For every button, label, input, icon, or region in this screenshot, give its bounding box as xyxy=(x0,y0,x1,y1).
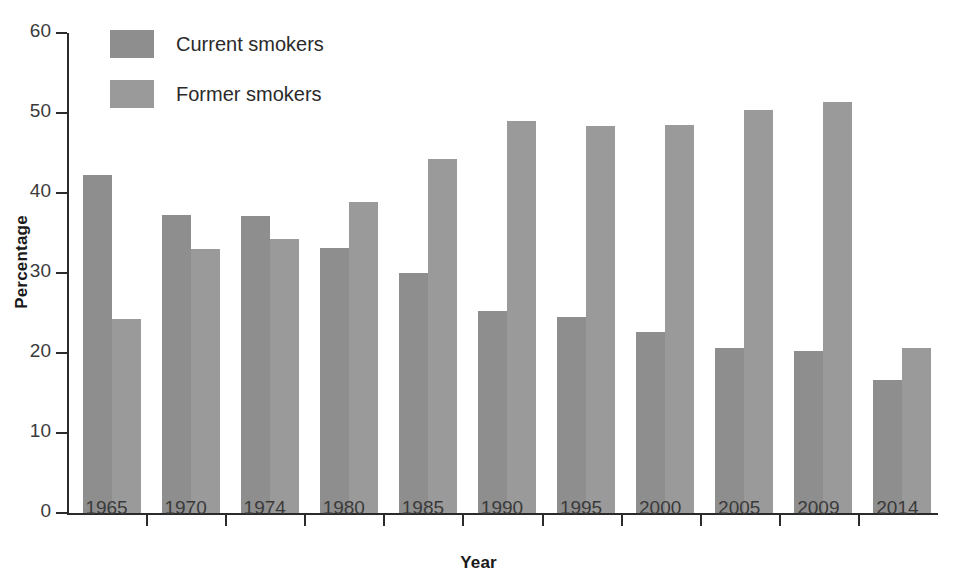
x-axis-title: Year xyxy=(0,553,957,573)
bar-1970-current-smokers xyxy=(162,215,191,513)
x-axis-tick-label: 1970 xyxy=(146,497,225,519)
bar-1995-current-smokers xyxy=(557,317,586,513)
x-axis-tick-label: 1965 xyxy=(67,497,146,519)
bar-2000-former-smokers xyxy=(665,125,694,513)
bar-1995-former-smokers xyxy=(586,126,615,513)
bar-1974-former-smokers xyxy=(270,239,299,513)
smoking-prevalence-bar-chart: Percentage Year Current smokers Former s… xyxy=(0,0,957,585)
y-axis-tick xyxy=(56,432,67,434)
y-axis-line xyxy=(67,33,69,514)
bar-1965-former-smokers xyxy=(112,319,141,513)
bar-2000-current-smokers xyxy=(636,332,665,513)
bar-1970-former-smokers xyxy=(191,249,220,513)
y-axis-tick-label: 10 xyxy=(9,420,51,442)
bar-1990-former-smokers xyxy=(507,121,536,513)
chart-legend: Current smokers Former smokers xyxy=(110,30,324,130)
x-axis-tick-label: 2009 xyxy=(779,497,858,519)
bar-1985-current-smokers xyxy=(399,273,428,513)
y-axis-tick-label: 40 xyxy=(9,180,51,202)
bar-1980-current-smokers xyxy=(320,248,349,513)
bar-2014-current-smokers xyxy=(873,380,902,513)
legend-swatch-current-smokers xyxy=(110,30,154,58)
y-axis-tick xyxy=(56,272,67,274)
y-axis-tick-label: 0 xyxy=(9,500,51,522)
x-axis-tick-label: 1985 xyxy=(383,497,462,519)
bar-1974-current-smokers xyxy=(241,216,270,513)
legend-swatch-former-smokers xyxy=(110,80,154,108)
bar-1965-current-smokers xyxy=(83,175,112,513)
x-axis-tick-label: 1974 xyxy=(225,497,304,519)
x-axis-tick-label: 2014 xyxy=(858,497,937,519)
legend-item-former-smokers: Former smokers xyxy=(110,80,324,108)
y-axis-tick xyxy=(56,512,67,514)
legend-label-former-smokers: Former smokers xyxy=(176,83,322,106)
bar-2005-former-smokers xyxy=(744,110,773,513)
bar-1980-former-smokers xyxy=(349,202,378,513)
bar-2005-current-smokers xyxy=(715,348,744,513)
y-axis-tick xyxy=(56,112,67,114)
bar-1990-current-smokers xyxy=(478,311,507,513)
y-axis-tick xyxy=(56,32,67,34)
x-axis-tick-label: 2000 xyxy=(621,497,700,519)
y-axis-tick-label: 50 xyxy=(9,100,51,122)
x-axis-tick-label: 1995 xyxy=(542,497,621,519)
legend-label-current-smokers: Current smokers xyxy=(176,33,324,56)
legend-item-current-smokers: Current smokers xyxy=(110,30,324,58)
bar-2014-former-smokers xyxy=(902,348,931,513)
x-axis-tick-label: 1990 xyxy=(462,497,541,519)
y-axis-tick-label: 30 xyxy=(9,260,51,282)
bar-2009-former-smokers xyxy=(823,102,852,513)
y-axis-tick xyxy=(56,352,67,354)
x-axis-tick-label: 1980 xyxy=(304,497,383,519)
y-axis-tick xyxy=(56,192,67,194)
bar-1985-former-smokers xyxy=(428,159,457,513)
bar-2009-current-smokers xyxy=(794,351,823,513)
y-axis-tick-label: 60 xyxy=(9,20,51,42)
y-axis-tick-label: 20 xyxy=(9,340,51,362)
x-axis-tick-label: 2005 xyxy=(700,497,779,519)
